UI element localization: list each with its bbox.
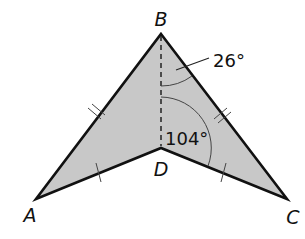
angle-label-26: 26°: [213, 50, 245, 71]
label-D: D: [154, 158, 169, 180]
dart-diagram: B A C D 26° 104°: [0, 0, 305, 239]
angle-label-104: 104°: [165, 128, 208, 149]
label-B: B: [154, 8, 167, 30]
label-A: A: [22, 204, 37, 226]
label-C: C: [286, 206, 300, 228]
